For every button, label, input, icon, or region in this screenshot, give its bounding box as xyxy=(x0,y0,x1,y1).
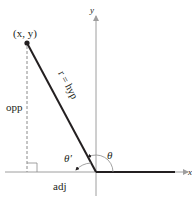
point-dot xyxy=(24,40,29,45)
opposite-label: opp xyxy=(6,101,23,113)
theta-prime-label: θ′ xyxy=(64,152,72,164)
x-axis-label: x xyxy=(187,167,192,177)
right-angle-marker xyxy=(27,163,37,172)
y-axis-label: y xyxy=(89,5,94,15)
reference-angle-diagram: (x, y) r = hyp opp adj θ θ′ y x xyxy=(0,0,192,200)
adjacent-label: adj xyxy=(53,180,66,192)
theta-prime-arc xyxy=(76,163,91,170)
theta-label: θ xyxy=(107,149,113,161)
hypotenuse-line xyxy=(27,43,96,172)
hypotenuse-label: r = hyp xyxy=(56,69,80,101)
point-label: (x, y) xyxy=(13,27,37,40)
